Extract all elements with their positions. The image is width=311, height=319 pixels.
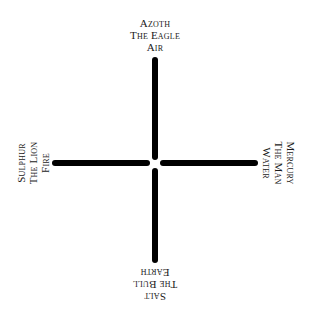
element-fire: Fire <box>39 108 51 218</box>
principle-azoth: Azoth <box>100 17 210 29</box>
creature-lion: The Lion <box>27 108 39 218</box>
cross-arm-left <box>52 160 150 166</box>
element-earth: Earth <box>100 267 210 279</box>
principle-mercury: Mercury <box>285 108 297 218</box>
principle-sulphur: Sulphur <box>15 108 27 218</box>
cross-arm-bottom <box>152 168 158 263</box>
creature-bull: The Bull <box>100 279 210 291</box>
label-bottom-earth: Salt The Bull Earth <box>100 267 210 303</box>
label-left-fire: Sulphur The Lion Fire <box>15 108 51 218</box>
element-water: Water <box>261 108 273 218</box>
label-right-water: Mercury The Man Water <box>261 108 297 218</box>
cross-arm-top <box>152 57 158 160</box>
principle-salt: Salt <box>100 291 210 303</box>
label-top-air: Azoth The Eagle Air <box>100 17 210 53</box>
cross-arm-right <box>160 160 258 166</box>
creature-eagle: The Eagle <box>100 29 210 41</box>
creature-man: The Man <box>273 108 285 218</box>
element-air: Air <box>100 41 210 53</box>
